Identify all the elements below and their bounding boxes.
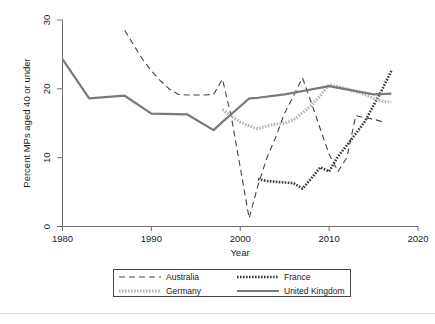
x-tick-label: 2020: [407, 233, 428, 244]
y-tick-label: 0: [41, 224, 52, 229]
chart-figure: 0102030 19801990200020102020 Percent MPs…: [0, 0, 435, 324]
chart-legend: Australia France Germany United Kingdom: [113, 269, 351, 297]
x-axis-tick-labels: 19801990200020102020: [52, 233, 429, 244]
y-tick-label: 20: [41, 84, 52, 95]
x-axis-ticks: [63, 227, 419, 232]
series-line-australia: [125, 30, 383, 218]
x-tick-label: 2000: [230, 233, 251, 244]
x-tick-label: 1990: [141, 233, 162, 244]
y-axis-tick-labels: 0102030: [41, 15, 52, 229]
legend-swatch-germany: [118, 287, 162, 295]
x-tick-label: 2010: [319, 233, 340, 244]
y-tick-label: 30: [41, 15, 52, 26]
y-axis-ticks: [57, 20, 63, 227]
legend-swatch-france: [236, 273, 280, 281]
x-axis-title: Year: [230, 247, 249, 258]
legend-label-germany: Germany: [166, 287, 201, 296]
legend-item-france: France: [232, 270, 352, 284]
legend-item-germany: Germany: [114, 284, 232, 298]
data-series-group: [63, 30, 392, 218]
legend-label-france: France: [284, 273, 310, 282]
footer-divider: [0, 313, 435, 314]
legend-swatch-australia: [118, 273, 162, 281]
legend-item-united-kingdom: United Kingdom: [232, 284, 352, 298]
legend-item-australia: Australia: [114, 270, 232, 284]
legend-label-australia: Australia: [166, 273, 199, 282]
legend-swatch-united-kingdom: [236, 287, 280, 295]
x-tick-label: 1980: [52, 233, 73, 244]
y-axis-title: Percent MPs aged 40 or under: [21, 58, 32, 187]
legend-label-united-kingdom: United Kingdom: [284, 287, 344, 296]
series-line-united-kingdom: [63, 59, 392, 130]
y-tick-label: 10: [41, 152, 52, 163]
